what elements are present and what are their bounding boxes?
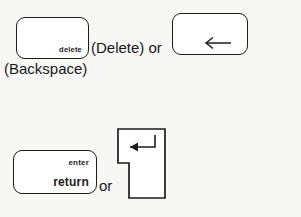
delete-key-label: delete [59,45,82,54]
key-reference-diagram: delete (Delete) or (Backspace) enter ret… [0,0,301,217]
caption-delete-or: (Delete) or [91,39,162,56]
return-key-enter-label: enter [68,158,89,167]
caption-backspace: (Backspace) [4,60,87,77]
return-key[interactable]: enter return [13,150,97,194]
backspace-key[interactable] [172,13,248,55]
delete-key[interactable]: delete [16,17,89,59]
left-arrow-icon [203,35,233,51]
caption-or: or [99,177,112,194]
enter-key[interactable] [117,128,166,199]
enter-key-shape [117,128,166,199]
return-key-return-label: return [53,175,89,189]
